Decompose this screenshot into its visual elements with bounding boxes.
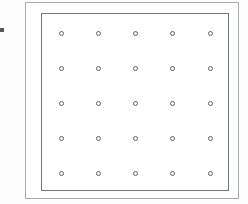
left-edge-tick-mark [0, 28, 4, 32]
inner-frame-rectangle [41, 13, 229, 191]
diagram-canvas [0, 0, 248, 204]
